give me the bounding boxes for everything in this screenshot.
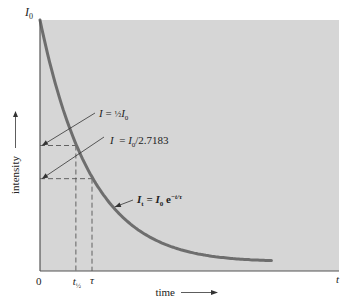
plot-background — [40, 20, 339, 271]
x-tick-label-t-half: t½ — [73, 275, 81, 290]
origin-label: 0 — [36, 275, 42, 287]
x-axis-end-label: t — [336, 273, 340, 285]
decay-diagram: I0 intensity 0 t½ τ t time I = ½I0 I = I… — [0, 0, 355, 305]
x-axis-arrow-icon — [211, 290, 218, 295]
y-axis-title-text: intensity — [9, 156, 21, 194]
y-axis-arrow-icon — [13, 111, 18, 117]
y-axis-title: intensity — [9, 111, 21, 194]
x-tick-label-tau: τ — [90, 274, 95, 286]
x-axis-title-text: time — [155, 286, 175, 298]
y-axis-top-label: I0 — [24, 5, 33, 21]
x-axis-title: time — [155, 286, 218, 298]
